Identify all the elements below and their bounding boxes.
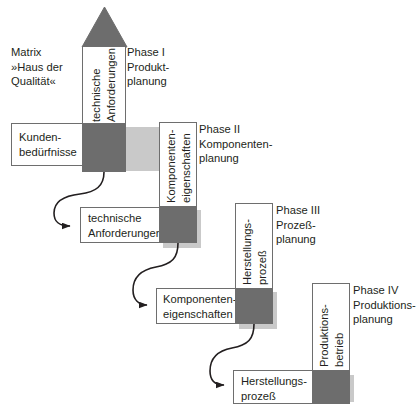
- row-4-label: Herstellungs- prozeß: [241, 374, 307, 403]
- matrix-caption: Matrix »Haus der Qualität«: [11, 45, 63, 89]
- matrix-cell-2: [159, 206, 197, 243]
- phase-1-label: Phase I Produkt- planung: [127, 45, 169, 89]
- phase-4-label: Phase IV Produktions- planung: [353, 283, 416, 327]
- matrix-cell-1: [82, 123, 126, 172]
- column-1-label: technische Anforderungen: [89, 48, 118, 122]
- matrix-cell-3: [235, 288, 273, 324]
- column-2-label: Komponenten- eigenschaften: [164, 130, 193, 203]
- matrix-cell-4: [312, 370, 350, 404]
- row-1-label: Kunden- bedürfnisse: [19, 130, 77, 159]
- row-2-label: technische Anforderungen: [88, 211, 162, 240]
- row-3-label: Komponenten- eigenschaften: [163, 292, 236, 321]
- phase-2-label: Phase II Komponenten- planung: [199, 122, 272, 166]
- column-3-label: Herstellungs- prozeß: [240, 219, 269, 285]
- house-of-quality-roof: [81, 6, 128, 48]
- phase-3-label: Phase III Prozeß- planung: [276, 203, 320, 247]
- column-4-label: Produktions- betrieb: [317, 304, 346, 367]
